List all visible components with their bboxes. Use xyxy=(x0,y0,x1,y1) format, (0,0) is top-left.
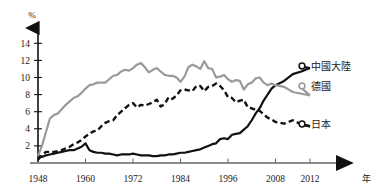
y-tick-label: 8 xyxy=(25,90,30,100)
legend-label-2: 日本 xyxy=(311,118,331,130)
y-tick-label: 10 xyxy=(21,73,31,83)
x-tick-label: 1960 xyxy=(76,174,95,184)
x-tick-label: 1972 xyxy=(124,174,143,184)
legend-marker-1 xyxy=(299,83,305,89)
x-axis: 年 1948196019721984199620082012 xyxy=(29,159,371,185)
legend-label-1: 德國 xyxy=(311,80,331,92)
x-tick-label: 1948 xyxy=(29,174,48,184)
y-tick-label: 2 xyxy=(25,141,30,151)
line-chart: % 2468101214 年 1948196019721984199620082… xyxy=(0,0,381,192)
x-tick-label: 2008 xyxy=(266,174,285,184)
x-tick-label: 1984 xyxy=(171,174,190,184)
legend-label-0: 中國大陸 xyxy=(311,60,351,72)
x-axis-unit-label: 年 xyxy=(362,173,371,184)
chart-canvas: % 2468101214 年 1948196019721984199620082… xyxy=(0,0,381,192)
y-tick-label: 12 xyxy=(21,56,31,66)
y-tick-label: 6 xyxy=(25,107,30,117)
x-tick-label: 2012 xyxy=(301,174,320,184)
x-tick-label: 1996 xyxy=(219,174,238,184)
y-tick-label: 14 xyxy=(21,39,31,49)
legend-marker-0 xyxy=(299,63,305,69)
y-axis-unit-label: % xyxy=(28,10,36,20)
legend-marker-2 xyxy=(299,121,305,127)
y-tick-label: 4 xyxy=(25,124,30,134)
series-line-0 xyxy=(38,68,310,157)
y-axis: % 2468101214 xyxy=(21,10,43,163)
series-layer xyxy=(38,61,310,159)
